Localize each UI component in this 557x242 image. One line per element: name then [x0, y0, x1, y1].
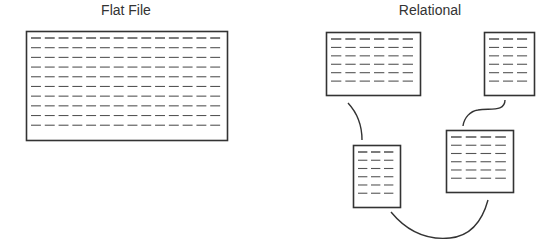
flat-file-table	[27, 32, 228, 141]
relational-table-top-left	[327, 33, 421, 96]
flat-table	[27, 32, 228, 141]
connector-top-left-to-bottom-left	[348, 103, 362, 140]
connector-bottom-left-to-bottom-right	[391, 200, 488, 238]
diagram-canvas	[0, 0, 557, 242]
connector-top-right-to-bottom-right	[463, 100, 505, 126]
relational-tables	[327, 33, 535, 208]
relational-table-bottom-right	[447, 131, 514, 193]
relational-table-bottom-left	[354, 146, 401, 208]
relational-table-top-right	[485, 33, 535, 96]
